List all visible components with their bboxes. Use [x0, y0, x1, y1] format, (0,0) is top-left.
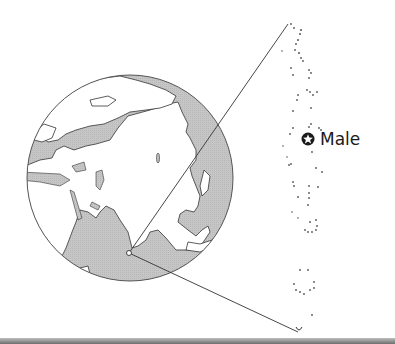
bottom-strip	[0, 338, 395, 344]
connector-line-bottom	[129, 253, 298, 332]
maldives-atolls	[281, 23, 323, 316]
locator-marker	[127, 251, 132, 256]
globe	[10, 75, 233, 290]
addu-atoll	[296, 327, 302, 330]
map-canvas	[0, 0, 395, 344]
capital-label: Male	[320, 131, 360, 148]
capital-marker	[302, 133, 315, 146]
lake-baikal	[157, 153, 160, 163]
